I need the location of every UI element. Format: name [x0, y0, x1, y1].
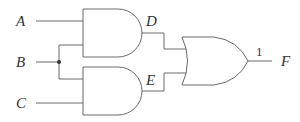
label-a: A [15, 13, 26, 29]
label-c: C [16, 95, 27, 111]
logic-circuit-diagram: A B C D E 1 F [0, 0, 300, 122]
wire-d [142, 33, 186, 49]
or-gate [182, 37, 248, 85]
label-b: B [16, 54, 25, 70]
label-e: E [145, 72, 155, 88]
output-value: 1 [256, 44, 263, 59]
and-gate-1 [83, 9, 142, 57]
label-d: D [145, 13, 157, 29]
label-f: F [280, 53, 291, 69]
and-gate-2 [83, 67, 142, 115]
wire-b-branch [59, 45, 83, 79]
junction-dot [57, 60, 61, 64]
